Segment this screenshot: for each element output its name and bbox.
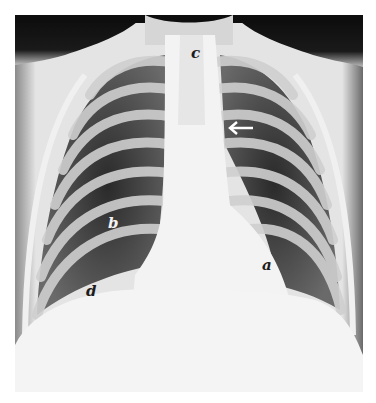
label-b: b (108, 216, 119, 231)
label-d: d (86, 284, 97, 299)
xray-image: c b a d (15, 15, 363, 392)
xray-graphic (15, 15, 363, 392)
label-c: c (191, 46, 200, 61)
arrow-left-icon (227, 121, 255, 135)
label-a: a (262, 258, 272, 273)
